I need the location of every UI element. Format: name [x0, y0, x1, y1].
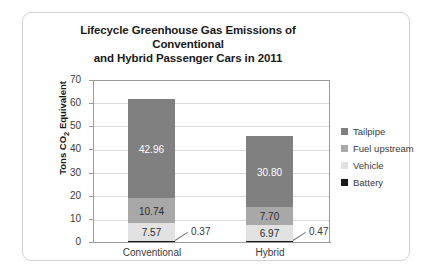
- legend-item-vehicle[interactable]: Vehicle: [341, 157, 414, 174]
- legend-swatch-icon: [341, 145, 348, 152]
- bar-segment-vehicle[interactable]: 6.97: [246, 225, 293, 241]
- y-tick-label-40: 40: [55, 143, 81, 154]
- bar-value-label: 10.74: [128, 205, 175, 216]
- y-tick-label-60: 60: [55, 97, 81, 108]
- bar-conventional[interactable]: 42.96 10.74 7.57: [128, 99, 175, 242]
- bar-segment-fuel-upstream[interactable]: 7.70: [246, 207, 293, 225]
- y-axis-line: [93, 80, 94, 243]
- plot-area: 42.96 10.74 7.57 30.80 7.70 6: [93, 80, 330, 242]
- bar-segment-tailpipe[interactable]: 30.80: [246, 136, 293, 207]
- bar-segment-tailpipe[interactable]: 42.96: [128, 99, 175, 198]
- chart-legend: Tailpipe Fuel upstream Vehicle Battery: [341, 123, 414, 191]
- x-axis-line: [93, 242, 331, 243]
- legend-label: Battery: [353, 177, 383, 188]
- battery-callout-hybrid: 0.47: [309, 226, 328, 237]
- chart-card: Lifecycle Greenhouse Gas Emissions of Co…: [22, 12, 410, 261]
- legend-label: Tailpipe: [353, 126, 385, 137]
- y-tick-label-10: 10: [55, 213, 81, 224]
- chart-title-line-2: and Hybrid Passenger Cars in 2011: [47, 51, 329, 65]
- x-axis-label-conventional: Conventional: [97, 247, 207, 258]
- bar-value-label: 42.96: [128, 143, 175, 154]
- legend-label: Vehicle: [353, 160, 384, 171]
- legend-swatch-icon: [341, 128, 348, 135]
- legend-swatch-icon: [341, 179, 348, 186]
- bar-value-label: 7.70: [246, 211, 293, 222]
- chart-screenshot: Lifecycle Greenhouse Gas Emissions of Co…: [0, 0, 435, 277]
- y-axis-title-subscript: 2: [62, 132, 71, 136]
- legend-item-battery[interactable]: Battery: [341, 174, 414, 191]
- chart-title: Lifecycle Greenhouse Gas Emissions of Co…: [47, 23, 329, 65]
- y-tick-label-0: 0: [55, 236, 81, 247]
- legend-swatch-icon: [341, 162, 348, 169]
- y-tick-label-50: 50: [55, 120, 81, 131]
- bar-hybrid[interactable]: 30.80 7.70 6.97: [246, 136, 293, 242]
- legend-item-tailpipe[interactable]: Tailpipe: [341, 123, 414, 140]
- bar-value-label: 6.97: [246, 228, 293, 239]
- bar-value-label: 7.57: [128, 227, 175, 238]
- x-axis-label-hybrid: Hybrid: [215, 247, 325, 258]
- legend-label: Fuel upstream: [353, 143, 414, 154]
- bar-value-label: 30.80: [246, 166, 293, 177]
- chart-title-line-1: Lifecycle Greenhouse Gas Emissions of Co…: [47, 23, 329, 51]
- y-tick-label-30: 30: [55, 167, 81, 178]
- legend-item-fuel-upstream[interactable]: Fuel upstream: [341, 140, 414, 157]
- battery-callout-conventional: 0.37: [191, 226, 210, 237]
- bar-segment-fuel-upstream[interactable]: 10.74: [128, 198, 175, 223]
- y-tick-label-70: 70: [55, 74, 81, 85]
- y-tick-label-20: 20: [55, 190, 81, 201]
- bar-segment-vehicle[interactable]: 7.57: [128, 223, 175, 241]
